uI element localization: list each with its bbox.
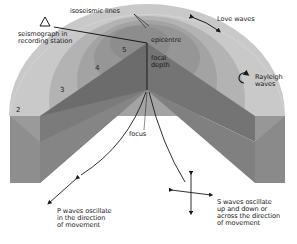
s-waves-label: S waves oscillate up and down or across … <box>217 199 280 227</box>
intensity-4-label: 4 <box>95 64 99 72</box>
seismograph-triangle-icon <box>40 17 50 26</box>
epicentre-label: epicentre <box>151 37 181 44</box>
isoseismic-lines-label: isoseismic lines <box>70 8 120 15</box>
p-waves-label: P waves oscillate in the direction of mo… <box>57 208 112 229</box>
focus-label: focus <box>129 131 146 138</box>
p-wave-arrow-icon <box>49 178 77 203</box>
seismograph-label: seismograph in recording station <box>18 31 72 45</box>
love-waves-label: Love waves <box>217 16 254 23</box>
intensity-5-label: 5 <box>122 46 126 54</box>
s-wave-cross-arrow-icon <box>171 173 211 213</box>
focal-depth-label: focal depth <box>151 55 170 69</box>
earthquake-diagram: isoseismic lines seismograph in recordin… <box>0 0 297 244</box>
rayleigh-waves-label: Rayleigh waves <box>255 74 283 88</box>
intensity-3-label: 3 <box>60 86 64 94</box>
intensity-2-label: 2 <box>16 106 20 114</box>
